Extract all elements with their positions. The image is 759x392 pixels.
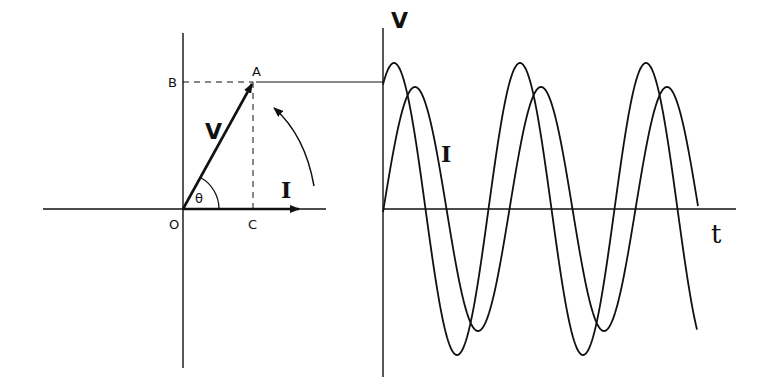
label-origin: O — [169, 217, 179, 232]
rotation-arrow-icon — [274, 108, 314, 186]
label-voltage-wave: V — [391, 8, 408, 33]
phasor-diagram: O A B C V I θ — [43, 33, 383, 368]
label-current-wave: I — [441, 141, 451, 167]
label-point-b: B — [168, 75, 177, 90]
angle-arc — [201, 178, 220, 210]
label-voltage-phasor: V — [205, 119, 222, 144]
label-angle-theta: θ — [195, 191, 203, 206]
phasor-waveform-diagram: O A B C V I θ V I t — [0, 0, 759, 392]
voltage-phasor-arrow — [183, 84, 252, 209]
label-point-c: C — [248, 217, 257, 232]
waveform-plot: V I t — [383, 8, 736, 377]
label-time-axis: t — [711, 219, 722, 249]
label-point-a: A — [252, 64, 261, 79]
label-current-phasor: I — [281, 177, 291, 203]
